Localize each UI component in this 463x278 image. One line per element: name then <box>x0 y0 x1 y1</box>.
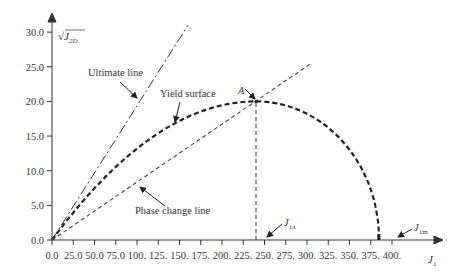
x-tick-label: 175. <box>192 250 210 261</box>
x-tick-label: 325. <box>319 250 337 261</box>
annotation-label: Ultimate line <box>88 67 143 78</box>
series-yield-surface <box>52 101 379 240</box>
x-axis-label: J1 <box>428 253 437 268</box>
x-tick-label: 25.0 <box>64 250 82 261</box>
x-tick-label: 125. <box>149 250 167 261</box>
y-tick-label: 30.0 <box>26 27 44 38</box>
y-tick-label: 25.0 <box>26 62 44 73</box>
axes <box>48 13 443 244</box>
phase-arrow-icon <box>140 187 165 206</box>
y-tick-label: 15.0 <box>26 131 44 142</box>
x-tick-label: 150. <box>170 250 188 261</box>
annotation-label: J1a <box>284 217 296 231</box>
j1m-marker <box>377 234 380 240</box>
y-tick-label: 5.0 <box>31 200 44 211</box>
x-tick-label: 200. <box>213 250 231 261</box>
x-tick-label: 300. <box>298 250 316 261</box>
j1m-arrow-icon <box>398 229 412 237</box>
j1a-arrow-icon <box>267 224 282 237</box>
y-tick-label: 20.0 <box>26 96 44 107</box>
series <box>52 25 380 240</box>
chart: 0.025.050.075.0100.125.150.175.200.225.2… <box>0 0 463 278</box>
x-tick-label: 400. <box>383 250 401 261</box>
x-tick-label: 50.0 <box>85 250 103 261</box>
x-tick-label: 100. <box>128 250 146 261</box>
yield-arrow-icon <box>175 102 180 122</box>
x-tick-label: 250. <box>255 250 273 261</box>
x-tick-label: 375. <box>362 250 380 261</box>
annotation-label: Yield surface <box>160 88 216 99</box>
y-axis-arrow-icon <box>48 13 56 22</box>
point-a-arrow-icon <box>245 89 255 99</box>
point-a-marker <box>255 100 258 103</box>
ultimate-arrow-icon <box>120 82 137 98</box>
annotation-label: J1m <box>414 222 428 236</box>
y-tick-label: 10.0 <box>26 166 44 177</box>
x-ticks: 0.025.050.075.0100.125.150.175.200.225.2… <box>45 240 401 261</box>
annotation-label: Phase change line <box>135 205 211 216</box>
x-tick-label: 225. <box>234 250 252 261</box>
annotation-label: A <box>237 85 245 96</box>
y-axis-label: √J2D <box>58 30 78 45</box>
y-tick-label: 0.0 <box>31 235 44 246</box>
x-axis-arrow-icon <box>434 236 443 244</box>
x-tick-label: 75.0 <box>107 250 125 261</box>
x-tick-label: 275. <box>277 250 295 261</box>
x-tick-label: 350. <box>340 250 358 261</box>
x-tick-label: 0.0 <box>45 250 58 261</box>
y-ticks: 0.05.010.015.020.025.030.0 <box>26 27 52 246</box>
